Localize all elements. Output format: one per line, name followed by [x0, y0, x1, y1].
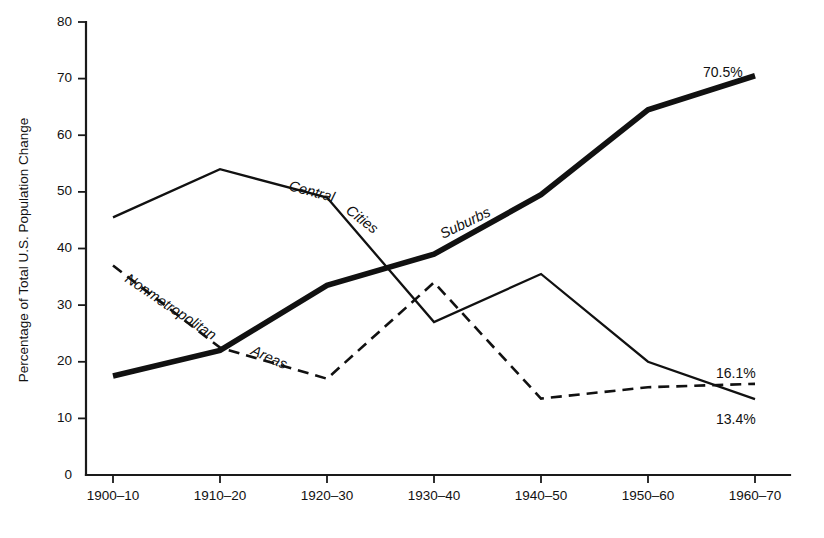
x-tick-label-1920-30: 1920–30: [301, 488, 354, 503]
endpoint-label-suburbs: 70.5%: [703, 64, 743, 80]
y-tick-label-30: 30: [57, 297, 72, 312]
population-change-line-chart: Percentage of Total U.S. Population Chan…: [0, 0, 824, 538]
series-label-central: Central: [287, 177, 337, 205]
y-tick-label-20: 20: [57, 353, 72, 368]
y-tick-label-60: 60: [57, 127, 72, 142]
series-label-cities: Cities: [343, 202, 381, 237]
y-tick-label-50: 50: [57, 183, 72, 198]
series-label-areas: Areas: [248, 342, 290, 372]
chart-canvas: Percentage of Total U.S. Population Chan…: [0, 0, 824, 538]
series-line-central-cities: [113, 169, 755, 399]
y-tick-label-80: 80: [57, 14, 72, 29]
x-tick-label-1940-50: 1940–50: [515, 488, 568, 503]
x-tick-label-1950-60: 1950–60: [622, 488, 675, 503]
x-tick-label-1930-40: 1930–40: [408, 488, 461, 503]
x-tick-label-1900-10: 1900–10: [87, 488, 140, 503]
endpoint-label-nonmetropolitan: 16.1%: [716, 365, 756, 381]
x-axis-ticks: [113, 475, 755, 483]
endpoint-label-central-cities: 13.4%: [716, 411, 756, 427]
x-tick-label-1910-20: 1910–20: [194, 488, 247, 503]
y-tick-label-0: 0: [64, 467, 72, 482]
y-axis-title: Percentage of Total U.S. Population Chan…: [16, 118, 31, 383]
x-tick-label-1960-70: 1960–70: [729, 488, 782, 503]
series-label-nonmetropolitan: Nonmetropolitan: [122, 270, 219, 343]
x-axis-tick-labels: 1900–10 1910–20 1920–30 1930–40 1940–50 …: [87, 488, 782, 503]
y-tick-label-10: 10: [57, 410, 72, 425]
y-tick-label-70: 70: [57, 70, 72, 85]
y-axis-ticks: [78, 22, 86, 418]
y-tick-label-40: 40: [57, 240, 72, 255]
y-axis-tick-labels: 80 70 60 50 40 30 20 10 0: [57, 14, 72, 482]
